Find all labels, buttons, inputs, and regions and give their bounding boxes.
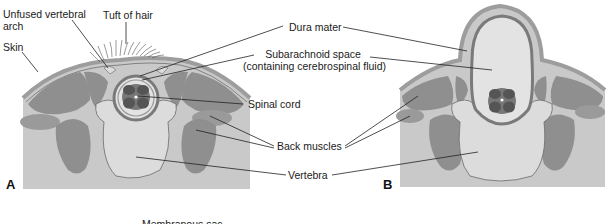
label-skin: Skin <box>3 41 23 53</box>
label-subarachnoid-space: Subarachnoid space (containing cerebrosp… <box>243 48 383 72</box>
label-spinal-cord: Spinal cord <box>248 98 301 110</box>
panel-b-spinal-cord <box>488 88 516 114</box>
label-vertebra: Vertebra <box>288 169 328 181</box>
label-dura-mater: Dura mater <box>289 21 342 33</box>
panel-a-muscle-ml <box>20 114 60 130</box>
panel-label-a: A <box>6 177 15 192</box>
panel-a-spinal-cord <box>122 84 150 110</box>
label-unfused-line1: Unfused vertebral <box>3 8 86 20</box>
spina-bifida-diagram <box>0 0 608 224</box>
label-back-muscles: Back muscles <box>277 140 342 152</box>
label-subarachnoid-line1: Subarachnoid space <box>243 48 383 60</box>
label-unfused-line2: arch <box>3 20 86 32</box>
panel-label-b: B <box>383 177 392 192</box>
label-subarachnoid-line2: (containing cerebrospinal fluid) <box>243 60 383 72</box>
label-unfused-vertebral-arch: Unfused vertebral arch <box>3 8 86 32</box>
label-membranous-sac-cut: Membranous sac <box>142 218 223 224</box>
label-tuft-of-hair: Tuft of hair <box>103 9 153 21</box>
